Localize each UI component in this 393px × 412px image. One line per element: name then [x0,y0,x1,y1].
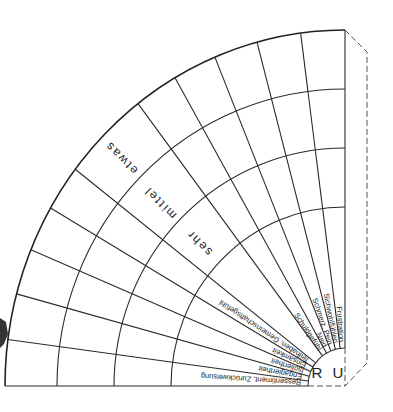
label-mittel: mittel [141,183,180,222]
category-teilhaben: Teilhaben, Gemeinschaftsgefühl [217,298,311,365]
spoke-line [31,250,311,372]
spoke-line [75,169,315,363]
center-label: R U [312,364,347,381]
emotion-wheel-diagram: sehr mittel etwas Ressentiment, Zurückwe… [0,0,393,412]
label-sehr: sehr [183,227,215,259]
intensity-labels: sehr mittel etwas [102,138,216,259]
label-etwas: etwas [102,138,141,177]
spoke-line [175,78,327,353]
